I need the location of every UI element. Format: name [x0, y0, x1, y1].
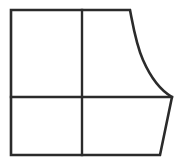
- line-drawing-svg: [0, 0, 183, 167]
- shape-interior-fill: [11, 10, 172, 155]
- figure-canvas: [0, 0, 183, 167]
